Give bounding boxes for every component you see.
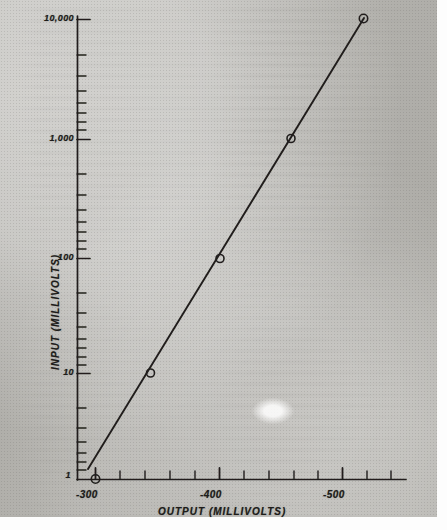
y-tick-label-100: 100 (16, 252, 74, 262)
x-tick-label-300: -300 (76, 489, 98, 500)
x-tick-label-400: -400 (200, 489, 222, 500)
y-tick-label-1: 1 (16, 470, 71, 480)
y-major-ticks (77, 20, 90, 374)
y-tick-label-1000: 1,000 (16, 133, 74, 143)
x-tick-label-500: -500 (323, 489, 345, 500)
data-line (88, 18, 364, 469)
x-minor-ticks (120, 471, 391, 479)
x-major-ticks (96, 468, 343, 479)
y-tick-label-10000: 10,000 (16, 13, 74, 23)
data-point-markers (91, 14, 367, 483)
y-tick-label-10: 10 (16, 367, 74, 377)
y-axis-title: INPUT (MILLIVOLTS) (50, 254, 61, 370)
figure-page: 10,000 1,000 100 10 1 -300 -400 -500 INP… (0, 0, 447, 530)
semilog-plot (0, 0, 447, 530)
x-axis-title: OUTPUT (MILLIVOLTS) (158, 506, 286, 517)
